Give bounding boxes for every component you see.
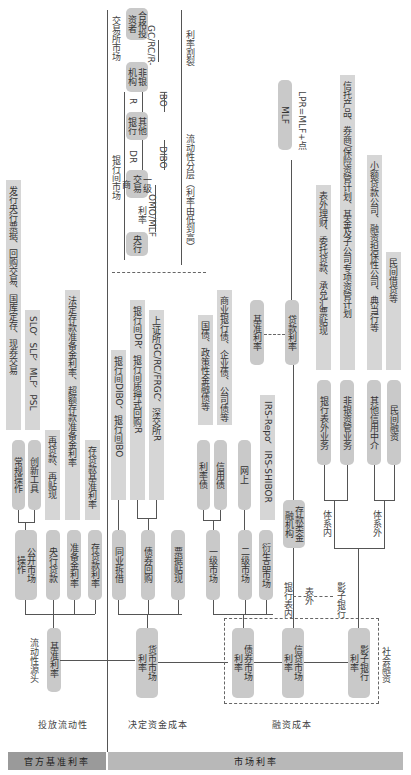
connector (213, 614, 273, 615)
connector (245, 600, 246, 614)
exchange-market-label: 交易所市场 (110, 8, 122, 68)
connector (148, 518, 149, 530)
lpr-arrow-line (291, 160, 292, 300)
benchmark-to-loan-dashed (264, 334, 285, 335)
private-lending-detail: 民间借贷等 (386, 252, 401, 370)
rate-bond-box: 利率债 (197, 440, 210, 510)
off-balance-dashed-link (293, 596, 333, 597)
bond-repo-box: 债券回购 (141, 530, 155, 600)
layer-caption: 流动性分层（利率由低到高） (184, 125, 196, 260)
flow-arrow (60, 660, 135, 661)
financing-cost-label: 融资成本 (272, 718, 312, 731)
out-system-label: 体系外 (372, 505, 382, 541)
connector (244, 510, 245, 530)
flow-arrow (254, 662, 282, 663)
connector (137, 518, 157, 519)
reserve-detail: 法定存款准备金利率、超额存款准备金利率 (65, 290, 80, 520)
other-banks-node: 其他银行 (126, 112, 148, 140)
connector (25, 614, 95, 615)
depository-institutions-box: 存款类金融机构 (283, 500, 305, 548)
flow-arrow (164, 92, 165, 112)
connector (18, 510, 19, 522)
connector (118, 614, 182, 615)
qualified-investor-node: 合格投资者 (126, 8, 148, 40)
repo-detail-2: 上证所GC/RC/FRGC、深交所R (149, 310, 164, 500)
secondary-market-box: 二级市场 (238, 530, 252, 600)
connector (384, 500, 385, 548)
rate-split-label: 利率割裂 (184, 25, 196, 70)
innovative-detail: SLO、SLF、MLF、PSL (25, 310, 40, 430)
market-rate-band: 市场利率 (108, 752, 403, 770)
official-rate-label: 官方基准利率 (24, 755, 90, 768)
connector (137, 500, 138, 518)
flow-arrow (155, 185, 156, 232)
credit-bond-box: 信用债 (214, 440, 227, 510)
non-bank-node: 非银机构 (126, 62, 148, 92)
connector (178, 600, 179, 614)
money-market-rate-box: 货币市场利率 (136, 628, 158, 698)
flow-arrow (158, 40, 159, 62)
connector (74, 600, 75, 614)
connector (324, 500, 348, 501)
open-market-ops-box: 公开市场操作 (15, 530, 37, 600)
liquidity-source-label: 流动性源头 (28, 630, 40, 690)
benchmark-rate-box: 基准利率 (47, 628, 61, 692)
mlf-box: MLF (278, 80, 292, 150)
connector (374, 500, 395, 501)
dibo-label: DIBO (158, 145, 168, 169)
connector (213, 520, 214, 530)
relending-detail: 再贷款、再贴现 (45, 430, 60, 520)
interbank-market-label: 银行间市场 (110, 150, 122, 205)
connector (334, 500, 335, 548)
connector (148, 600, 149, 614)
connector (394, 465, 395, 500)
private-lending-box: 民间融资 (387, 380, 401, 465)
layers-left-line (107, 10, 108, 30)
flow-arrow (142, 92, 143, 112)
irs-detail: IRS-Repo、IRS-SHIBOR (260, 395, 275, 520)
regular-ops-box: 常规操作 (12, 440, 25, 510)
connector (293, 365, 294, 500)
deposit-loan-rate-box: 存贷款利率 (88, 530, 102, 600)
deposit-benchmark-detail: 存贷款基准利率 (85, 440, 100, 520)
market-rate-label: 市场利率 (234, 755, 278, 768)
release-liquidity-label: 投放流动性 (38, 718, 88, 731)
bank-off-balance-box: 银行表外业务 (317, 380, 331, 465)
ibo-label: IBO (158, 88, 168, 110)
credit-market-rate-box: 信贷市场利率 (282, 628, 304, 698)
determine-funding-cost-label: 决定资金成本 (128, 718, 188, 731)
central-bank-loan-box: 央行贷款 (46, 530, 60, 600)
non-bank-am-detail: 信托产品、券商/保险资管计划、基金及子公司专项资管计划 (340, 75, 355, 370)
bill-discount-box: 票据贴现 (171, 530, 185, 600)
connector (347, 465, 348, 500)
repo-detail-1: 银行间DR、银行间质押式回购R (130, 300, 145, 500)
lending-detail: 银行间DIBO、银行间IBO (111, 350, 126, 500)
r-label: R (128, 95, 138, 107)
bank-off-balance-detail: 表外理财、委托贷款、承兑汇票贴现 (316, 185, 331, 370)
regular-ops-detail: 发行央行票据、回购交易、国库定存、现券交易 (6, 180, 21, 430)
social-financing-label: 社会融资 (381, 640, 391, 690)
shadow-bank-label: 影子银行 (336, 580, 346, 620)
rate-bond-detail: 国债、政策性金融债等 (198, 315, 213, 425)
connector (34, 510, 35, 522)
benchmark-rate-2-box: 基准利率 (250, 300, 264, 365)
connector (243, 614, 244, 628)
dr-label: DR (128, 150, 138, 164)
innovative-tools-box: 创新工具 (28, 440, 41, 510)
connector (203, 520, 221, 521)
connector (118, 500, 119, 530)
connector (25, 522, 26, 530)
connector (53, 600, 54, 614)
connector (213, 600, 214, 614)
primary-dealer-node: 一级交易商 (126, 170, 148, 198)
layers-divider (112, 272, 206, 273)
flow-arrow (164, 140, 165, 170)
shadow-bank-rate-box: 影子银行利率 (348, 628, 370, 698)
in-system-label: 体系内 (322, 505, 332, 541)
lpr-formula: LPR=MLF+点 (296, 90, 308, 150)
loan-rate-box: 贷款利率 (285, 300, 299, 365)
primary-market-box: 一级市场 (206, 530, 220, 600)
connector (156, 500, 157, 518)
flow-arrow (304, 662, 348, 663)
connector (147, 614, 148, 628)
